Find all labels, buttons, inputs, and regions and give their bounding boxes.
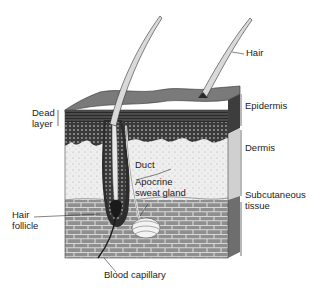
hair-shaft-right (200, 18, 252, 98)
label-blood-capillary: Blood capillary (104, 270, 166, 281)
label-duct: Duct (135, 160, 155, 171)
skin-diagram: Hair Epidermis Dermis Subcutaneous tissu… (0, 0, 315, 294)
apocrine-gland-coil (132, 218, 160, 238)
label-dermis: Dermis (245, 143, 275, 154)
label-epidermis: Epidermis (245, 101, 287, 112)
label-hair-follicle: Hair follicle (12, 210, 38, 231)
epidermis-cell-layer (65, 122, 228, 132)
skin-surface (65, 86, 240, 112)
label-apocrine-sweat-gland: Apocrine sweat gland (135, 177, 186, 198)
block-side-face (228, 94, 240, 258)
label-hair: Hair (246, 48, 263, 59)
label-dead-layer: Dead layer (32, 108, 55, 129)
label-subcutaneous-tissue: Subcutaneous tissue (245, 190, 306, 211)
hair-shaft-left (110, 16, 162, 126)
epidermis-layer (65, 110, 228, 124)
